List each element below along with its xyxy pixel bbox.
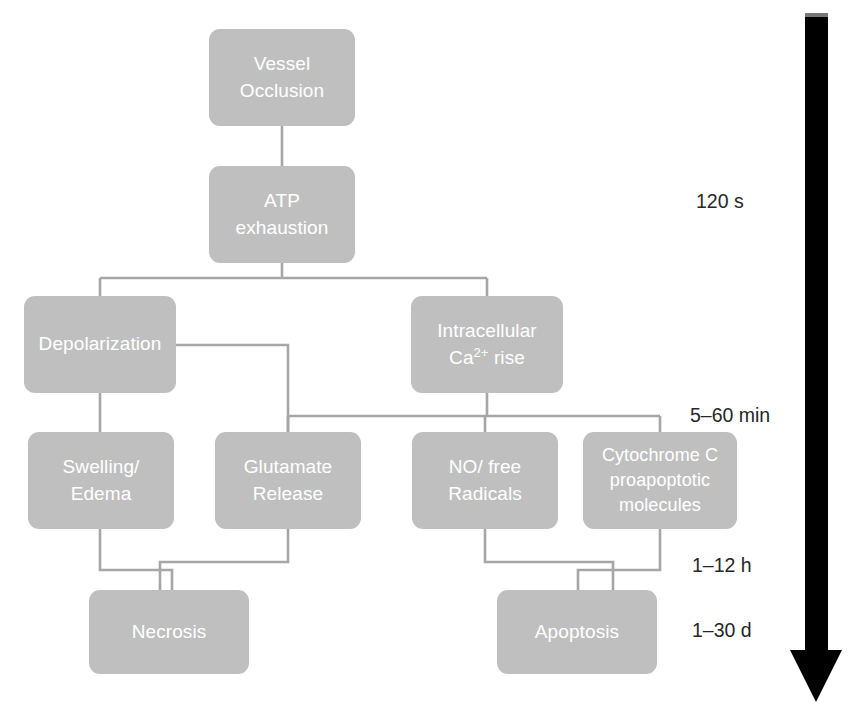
node-vessel-occlusion[interactable]: Vessel Occlusion [209, 29, 355, 126]
node-no-free-radicals[interactable]: NO/ free Radicals [412, 432, 558, 529]
node-depolarization[interactable]: Depolarization [24, 296, 176, 393]
wire-swelling-to-necrosis [100, 529, 172, 590]
ca-formula: Ca2+ [449, 347, 488, 368]
node-atp-exhaustion[interactable]: ATP exhaustion [209, 166, 355, 263]
ca-line-2: rise [494, 347, 525, 368]
node-intracellular-ca-rise-label: IntracellularCa2+ rise [411, 318, 563, 370]
node-atp-exhaustion-label: ATP exhaustion [209, 188, 355, 240]
node-necrosis[interactable]: Necrosis [89, 590, 249, 674]
wire-depolarization-to-glutamate [176, 345, 288, 432]
node-glutamate-release[interactable]: Glutamate Release [215, 432, 361, 529]
node-vessel-occlusion-label: Vessel Occlusion [209, 51, 355, 103]
wire-cytochrome-to-apoptosis [578, 529, 660, 590]
node-swelling-edema-label: Swelling/ Edema [28, 454, 174, 506]
time-label-1-30-d: 1–30 d [692, 619, 752, 642]
wire-radicals-to-apoptosis [485, 529, 613, 590]
node-swelling-edema[interactable]: Swelling/ Edema [28, 432, 174, 529]
node-necrosis-label: Necrosis [89, 619, 249, 645]
node-cytochrome-c-label: Cytochrome C proapoptotic molecules [583, 443, 737, 517]
node-depolarization-label: Depolarization [24, 331, 176, 357]
time-label-120s: 120 s [696, 190, 744, 213]
node-intracellular-ca-rise[interactable]: IntracellularCa2+ rise [411, 296, 563, 393]
node-apoptosis-label: Apoptosis [497, 619, 657, 645]
node-no-free-radicals-label: NO/ free Radicals [412, 454, 558, 506]
node-glutamate-release-label: Glutamate Release [215, 454, 361, 506]
wire-glutamate-to-necrosis [160, 529, 288, 590]
time-axis-arrow [786, 10, 846, 706]
node-cytochrome-c[interactable]: Cytochrome C proapoptotic molecules [583, 432, 737, 529]
flowchart-canvas: Vessel Occlusion ATP exhaustion Depolari… [0, 0, 862, 712]
node-apoptosis[interactable]: Apoptosis [497, 590, 657, 674]
time-label-5-60-min: 5–60 min [690, 404, 770, 427]
ca-line-1: Intracellular [437, 320, 537, 341]
time-label-1-12-h: 1–12 h [692, 554, 752, 577]
